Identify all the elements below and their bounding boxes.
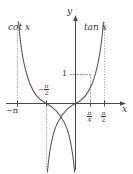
- curve-label-cot: cot x: [8, 22, 30, 32]
- fraction-denominator: 2: [44, 90, 49, 96]
- x-tick-label-neg-pi: −π: [6, 106, 18, 115]
- fraction-neg-pi-2: π2: [44, 83, 49, 97]
- fraction-denominator: 2: [101, 117, 106, 123]
- curve-tan-branch-lower: [47, 104, 75, 173]
- y-axis-label: y: [67, 6, 72, 16]
- curve-cot-branch-right: [47, 104, 75, 173]
- fraction-denominator: 4: [87, 117, 92, 123]
- curve-tan-branch-main: [76, 22, 104, 104]
- trig-graph-figure: cot x tan x x y 1 −π −π2 π4 π2: [0, 0, 133, 174]
- fraction-pi-4: π4: [87, 110, 92, 124]
- x-tick-label-pi-over-2: π2: [101, 106, 106, 125]
- x-tick-label-neg-pi-over-2: −π2: [38, 79, 49, 98]
- y-axis-arrowhead: [73, 15, 78, 21]
- x-tick-label-pi-over-4: π4: [87, 106, 92, 125]
- x-axis-label: x: [122, 104, 127, 114]
- curve-label-tan: tan x: [84, 22, 107, 32]
- y-tick-label-one: 1: [62, 69, 67, 78]
- fraction-pi-2: π2: [101, 110, 106, 124]
